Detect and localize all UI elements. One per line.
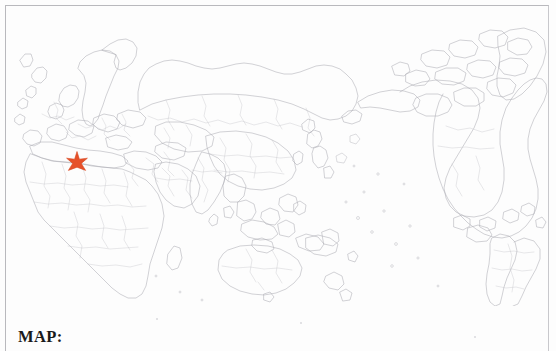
scan-speck	[156, 318, 158, 320]
mediterranean-outlines	[30, 135, 186, 186]
oceania-outlines	[218, 235, 358, 302]
document-page: MAP:	[0, 0, 556, 351]
europe-outlines	[15, 39, 146, 146]
map-location-marker[interactable]	[64, 150, 90, 176]
north-america-outlines	[342, 30, 547, 238]
south-america-outlines	[454, 203, 546, 306]
asia-north-outlines	[138, 60, 358, 152]
map-caption-label: MAP:	[18, 327, 63, 346]
southern-fragments	[155, 275, 439, 301]
south-asia-outlines	[190, 152, 339, 253]
scan-speck	[300, 322, 302, 324]
africa-outlines	[24, 154, 182, 298]
caption-row: MAP:	[18, 326, 538, 350]
star-marker-icon	[64, 150, 90, 176]
pacific-islands	[336, 134, 419, 267]
